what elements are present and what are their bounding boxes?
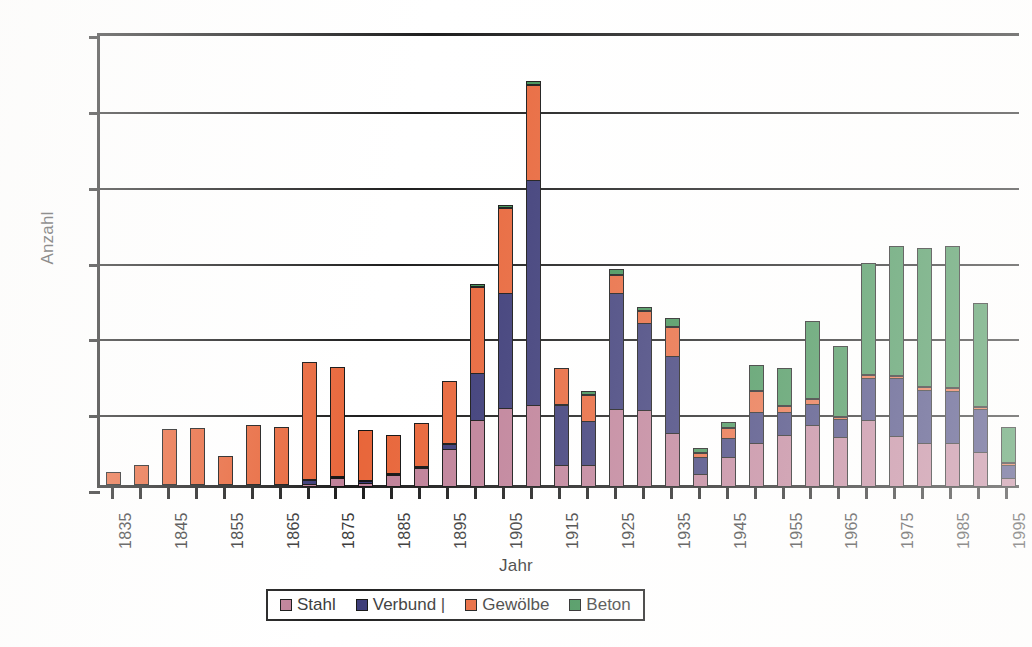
bar-1875[interactable] [330,367,345,485]
bar-1980[interactable] [917,248,932,485]
bar-segment-verbund-1920[interactable] [581,421,596,467]
bar-segment-verbund-1915[interactable] [554,405,569,467]
bar-1910[interactable] [526,81,541,485]
bar-segment-gewoelbe-1855[interactable] [218,456,233,485]
bar-segment-verbund-1930[interactable] [637,323,652,412]
bar-segment-verbund-1935[interactable] [665,356,680,435]
bar-segment-stahl-1970[interactable] [861,420,876,487]
bar-1905[interactable] [498,205,513,485]
bar-1970[interactable] [861,263,876,485]
bar-segment-beton-1950[interactable] [749,365,764,392]
bar-segment-verbund-1975[interactable] [889,378,904,437]
bar-segment-beton-1975[interactable] [889,246,904,376]
bar-segment-gewoelbe-1935[interactable] [665,327,680,357]
bar-segment-beton-1935[interactable] [665,318,680,326]
bar-segment-gewoelbe-1905[interactable] [498,208,513,294]
bar-1840[interactable] [134,465,149,485]
bar-segment-stahl-1900[interactable] [470,420,485,487]
bar-segment-verbund-1945[interactable] [721,438,736,458]
bar-1940[interactable] [693,448,708,485]
bar-segment-beton-1980[interactable] [917,248,932,388]
bar-1920[interactable] [581,391,596,485]
bar-1890[interactable] [414,423,429,485]
bar-1885[interactable] [386,435,401,485]
bar-segment-gewoelbe-1900[interactable] [470,287,485,375]
bar-segment-gewoelbe-1885[interactable] [386,435,401,474]
bar-segment-gewoelbe-1890[interactable] [414,423,429,467]
bar-segment-verbund-1900[interactable] [470,373,485,422]
bar-1915[interactable] [554,368,569,485]
bar-segment-gewoelbe-1870[interactable] [302,362,317,480]
bar-segment-gewoelbe-1880[interactable] [358,430,373,482]
bar-segment-gewoelbe-1950[interactable] [749,391,764,413]
bar-segment-stahl-1895[interactable] [442,449,457,486]
bar-segment-stahl-1875[interactable] [330,478,345,486]
bar-segment-stahl-1925[interactable] [609,409,624,486]
bar-segment-gewoelbe-1860[interactable] [246,425,261,485]
bar-1895[interactable] [442,381,457,485]
bar-1930[interactable] [637,307,652,485]
bar-segment-beton-1970[interactable] [861,263,876,375]
bar-segment-stahl-1945[interactable] [721,457,736,487]
bar-1995[interactable] [1001,427,1016,485]
legend-item-2[interactable]: Gewölbe [465,595,549,615]
bar-segment-gewoelbe-1835[interactable] [106,472,121,485]
bar-1950[interactable] [749,365,764,485]
bar-segment-verbund-1905[interactable] [498,293,513,409]
legend-item-1[interactable]: Verbund | [356,595,445,615]
bar-segment-verbund-1910[interactable] [526,180,541,406]
bar-1865[interactable] [274,427,289,485]
bar-segment-verbund-1955[interactable] [777,412,792,436]
bar-segment-stahl-1905[interactable] [498,408,513,487]
bar-1945[interactable] [721,422,736,485]
bar-segment-stahl-1975[interactable] [889,436,904,487]
bar-segment-stahl-1890[interactable] [414,468,429,486]
bar-segment-beton-1990[interactable] [973,303,988,407]
bar-segment-verbund-1965[interactable] [833,419,848,438]
bar-segment-verbund-1985[interactable] [945,391,960,444]
bar-segment-beton-1985[interactable] [945,246,960,389]
bar-segment-stahl-1920[interactable] [581,465,596,486]
bar-segment-gewoelbe-1910[interactable] [526,85,541,182]
bar-1925[interactable] [609,269,624,485]
bar-segment-gewoelbe-1850[interactable] [190,428,205,485]
bar-segment-stahl-1950[interactable] [749,443,764,487]
bar-1855[interactable] [218,456,233,485]
bar-segment-gewoelbe-1920[interactable] [581,395,596,423]
bar-segment-stahl-1940[interactable] [693,474,708,486]
bar-1975[interactable] [889,246,904,485]
bar-1900[interactable] [470,284,485,485]
bar-segment-gewoelbe-1895[interactable] [442,381,457,444]
bar-1960[interactable] [805,321,820,485]
bar-segment-stahl-1930[interactable] [637,410,652,487]
bar-segment-stahl-1880[interactable] [358,483,373,487]
bar-segment-stahl-1980[interactable] [917,443,932,487]
bar-segment-beton-1960[interactable] [805,321,820,398]
bar-1835[interactable] [106,472,121,485]
legend-item-0[interactable]: Stahl [280,595,336,615]
bar-segment-gewoelbe-1840[interactable] [134,465,149,485]
bar-segment-verbund-1980[interactable] [917,390,932,444]
bar-segment-stahl-1985[interactable] [945,443,960,487]
bar-segment-verbund-1960[interactable] [805,404,820,427]
bar-segment-verbund-1950[interactable] [749,412,764,445]
bar-1870[interactable] [302,362,317,485]
bar-segment-stahl-1885[interactable] [386,475,401,486]
bar-1990[interactable] [973,303,988,485]
bar-segment-stahl-1935[interactable] [665,433,680,487]
bar-1845[interactable] [162,429,177,485]
bar-segment-stahl-1915[interactable] [554,465,569,486]
bar-segment-verbund-1970[interactable] [861,378,876,422]
bar-segment-gewoelbe-1915[interactable] [554,368,569,404]
legend-item-3[interactable]: Beton [569,595,630,615]
bar-1935[interactable] [665,318,680,485]
bar-segment-beton-1965[interactable] [833,346,848,417]
bar-segment-stahl-1995[interactable] [1001,478,1016,486]
bar-segment-verbund-1940[interactable] [693,457,708,476]
bar-segment-stahl-1990[interactable] [973,452,988,487]
bar-1860[interactable] [246,425,261,485]
bar-segment-verbund-1990[interactable] [973,409,988,453]
bar-segment-stahl-1965[interactable] [833,437,848,487]
bar-segment-beton-1995[interactable] [1001,427,1016,463]
bar-segment-stahl-1870[interactable] [302,484,317,487]
